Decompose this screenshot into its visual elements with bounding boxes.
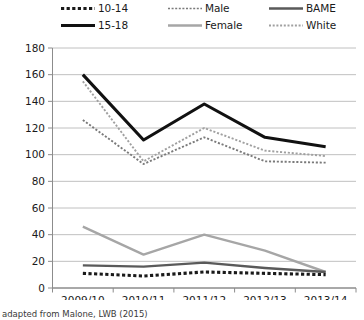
x-axis-tick-label: 2012/13 (243, 294, 287, 300)
x-axis-tick-label: 2010/11 (122, 294, 166, 300)
y-axis-labels: 020406080100120140160180 (25, 42, 45, 294)
y-axis-tick-label: 0 (38, 282, 45, 294)
y-axis-tick-label: 100 (25, 148, 45, 160)
plot-area: 020406080100120140160180 2009/102010/112… (0, 0, 364, 300)
y-axis-ticks (48, 48, 53, 288)
series-line-bame (83, 263, 326, 272)
series-line-15-18 (83, 75, 326, 147)
plot-svg: 020406080100120140160180 2009/102010/112… (0, 0, 364, 300)
y-axis-tick-label: 160 (25, 68, 45, 80)
y-axis-tick-label: 20 (32, 255, 45, 267)
y-axis-tick-label: 40 (32, 228, 45, 240)
gridlines (53, 48, 357, 288)
y-axis-tick-label: 180 (25, 42, 45, 54)
x-axis-ticks (53, 288, 357, 293)
x-axis-tick-label: 2009/10 (61, 294, 105, 300)
y-axis-tick-label: 60 (32, 202, 45, 214)
series-line-10-14 (83, 272, 326, 276)
line-chart: 10-14 Male BAME 15-1 (0, 0, 364, 320)
series-line-white (83, 81, 326, 161)
y-axis-tick-label: 120 (25, 122, 45, 134)
data-series-group (83, 75, 326, 276)
x-axis-tick-label: 2011/12 (182, 294, 226, 300)
x-axis-labels: 2009/102010/112011/122012/132013/14 (61, 294, 348, 300)
y-axis-tick-label: 140 (25, 95, 45, 107)
x-axis-tick-label: 2013/14 (304, 294, 348, 300)
figure-caption: adapted from Malone, LWB (2015) (2, 309, 362, 320)
y-axis-tick-label: 80 (32, 175, 45, 187)
